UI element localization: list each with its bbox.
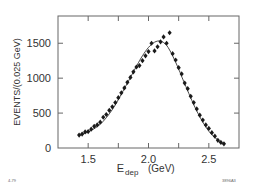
fit-curve	[79, 41, 224, 144]
data-point-diamond	[110, 104, 114, 109]
axis-ticks	[58, 16, 239, 148]
data-point-diamond	[155, 44, 159, 49]
x-axis-title-subscript: dep	[125, 168, 139, 177]
y-tick-label: 1000	[27, 72, 51, 84]
y-tick-labels: 050010001500	[27, 37, 51, 154]
y-axis-title: EVENTS/(0.025 GeV)	[12, 38, 22, 126]
chart: 050010001500 1.52.02.5 EVENTS/(0.025 GeV…	[0, 0, 254, 193]
data-point-diamond	[113, 100, 117, 105]
data-point-diamond	[149, 41, 153, 46]
data-point-diamond	[152, 48, 156, 53]
data-points	[77, 30, 226, 146]
y-tick-label: 500	[33, 107, 51, 119]
data-point-diamond	[162, 34, 166, 39]
data-point-diamond	[77, 132, 81, 137]
data-point-diamond	[168, 30, 172, 35]
x-axis-title: E	[117, 162, 124, 174]
plot-frame	[58, 16, 239, 148]
y-tick-label: 0	[45, 142, 51, 154]
corner-date-label: 4-79	[8, 178, 17, 183]
corner-figure-id: 3896A3	[222, 178, 237, 183]
data-point-diamond	[204, 122, 208, 127]
y-tick-label: 1500	[27, 37, 51, 49]
data-point-diamond	[207, 126, 211, 131]
data-point-diamond	[165, 41, 169, 46]
data-point-diamond	[98, 120, 102, 125]
data-point-diamond	[210, 130, 214, 135]
x-tick-label: 1.5	[81, 153, 96, 165]
data-point-diamond	[158, 39, 162, 44]
data-point-diamond	[116, 95, 120, 100]
x-axis-unit: (GeV)	[148, 163, 175, 174]
data-point-diamond	[213, 134, 217, 139]
x-tick-label: 2.5	[201, 153, 216, 165]
data-point-diamond	[171, 51, 175, 56]
data-point-diamond	[201, 117, 205, 122]
